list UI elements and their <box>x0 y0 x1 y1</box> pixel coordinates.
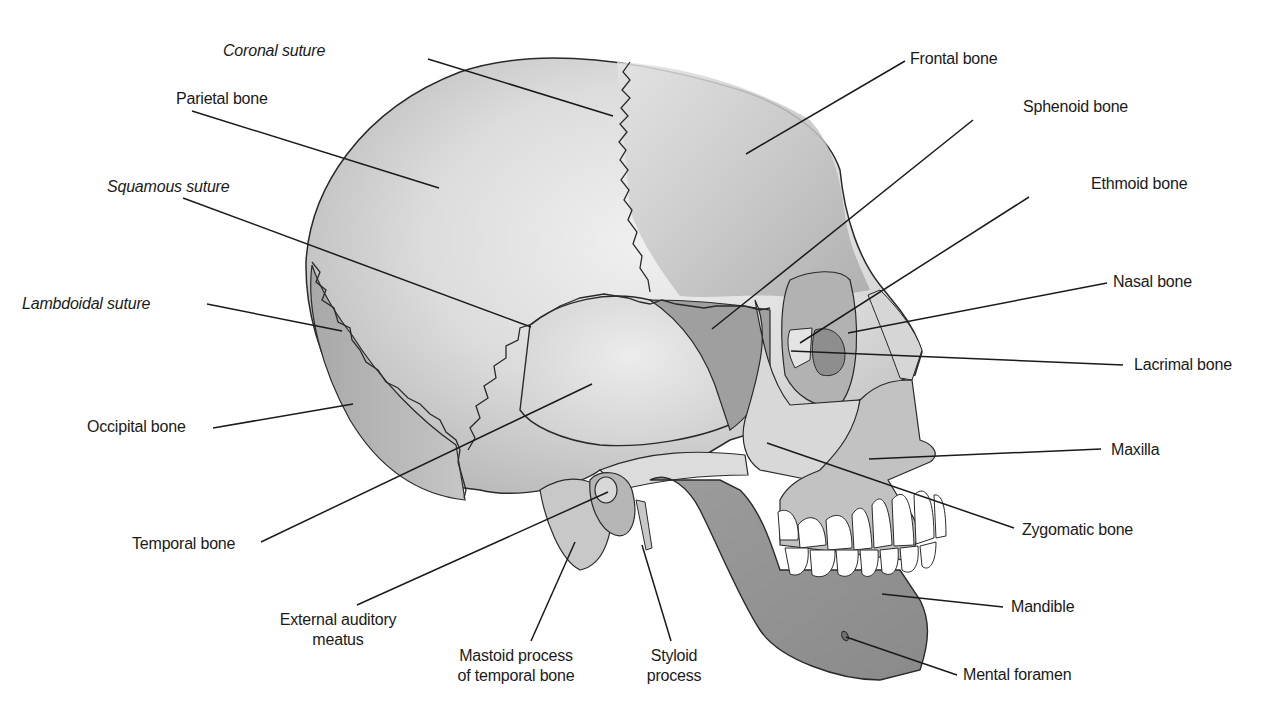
label-frontal-bone: Frontal bone <box>910 49 997 69</box>
leader-occipital-bone <box>213 404 353 428</box>
leader-mastoid-process <box>531 542 575 641</box>
label-sphenoid-bone: Sphenoid bone <box>1023 97 1128 117</box>
label-styloid-process-line1: Styloid <box>647 646 702 666</box>
label-mastoid-process-line1: Mastoid process <box>458 646 575 666</box>
label-lacrimal-bone: Lacrimal bone <box>1134 355 1232 375</box>
label-zygomatic-bone: Zygomatic bone <box>1022 520 1133 540</box>
label-external-auditory-meatus-line2: meatus <box>280 630 397 650</box>
label-external-auditory-meatus-line1: External auditory <box>280 610 397 630</box>
label-ethmoid-bone: Ethmoid bone <box>1091 174 1187 194</box>
external-auditory-meatus-opening <box>595 477 617 503</box>
label-styloid-process-line2: process <box>647 666 702 686</box>
label-mandible: Mandible <box>1011 597 1074 617</box>
label-parietal-bone: Parietal bone <box>176 89 268 109</box>
label-squamous-suture: Squamous suture <box>107 177 229 197</box>
label-mastoid-process-line2: of temporal bone <box>458 666 575 686</box>
skull-diagram: Coronal suture Parietal bone Squamous su… <box>0 0 1282 717</box>
label-occipital-bone: Occipital bone <box>87 417 186 437</box>
styloid-process-shape <box>636 500 652 550</box>
label-maxilla: Maxilla <box>1111 440 1159 460</box>
leader-styloid-process <box>642 545 671 641</box>
label-mental-foramen: Mental foramen <box>963 665 1071 685</box>
label-nasal-bone: Nasal bone <box>1113 272 1192 292</box>
label-lambdoidal-suture: Lambdoidal suture <box>22 294 150 314</box>
label-temporal-bone: Temporal bone <box>132 534 235 554</box>
label-mastoid-process: Mastoid process of temporal bone <box>458 646 575 686</box>
label-styloid-process: Styloid process <box>647 646 702 686</box>
label-coronal-suture: Coronal suture <box>223 41 325 61</box>
label-external-auditory-meatus: External auditory meatus <box>280 610 397 650</box>
